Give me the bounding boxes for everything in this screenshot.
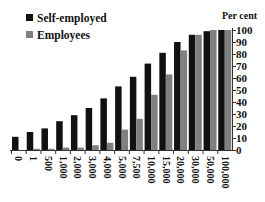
swatch-self-employed-icon [26,14,33,21]
legend-item-employees: Employees [26,26,107,43]
bar-self-employed-3 [56,121,63,150]
bar-employees-8 [136,119,143,150]
bar-employees-7 [122,130,129,150]
y-tick-label: 80 [236,49,247,60]
x-tick-label: 20,000 [175,156,185,184]
x-tick-label: 3,000 [87,156,97,179]
legend-item-self-employed: Self-employed [26,9,107,26]
x-tick-label: 15,000 [161,156,171,184]
bar-self-employed-5 [86,108,93,150]
x-tick-label: 1 [28,156,38,161]
bar-self-employed-2 [41,128,48,150]
bar-self-employed-8 [130,77,137,150]
x-tick-label: 0 [13,156,23,161]
legend-label-self-employed: Self-employed [37,12,107,24]
y-tick-label: 40 [236,97,247,108]
bar-employees-14 [225,30,232,150]
bar-self-employed-11 [174,42,181,150]
bar-employees-3 [63,148,69,150]
bar-employees-10 [166,74,173,150]
legend-label-employees: Employees [37,29,90,41]
x-tick-label: 7,500 [131,156,141,179]
bar-employees-13 [210,30,217,150]
bar-self-employed-7 [115,86,122,150]
x-tick-label: 10,000 [146,156,156,184]
bar-self-employed-0 [12,137,19,150]
y-tick-label: 0 [236,145,242,156]
bar-employees-9 [151,95,158,150]
bar-employees-1 [33,149,40,150]
y-axis-unit-label: Per cent [222,10,257,21]
x-tick-label: 500 [43,156,53,171]
bar-self-employed-10 [159,53,166,150]
x-tick-label: 2,000 [72,156,82,179]
y-tick-label: 30 [236,109,247,120]
bar-employees-5 [92,145,99,150]
bar-self-employed-14 [218,30,225,150]
legend: Self-employed Employees [26,9,107,43]
bar-employees-11 [181,50,188,150]
y-tick-label: 90 [236,37,247,48]
bar-self-employed-4 [71,115,78,150]
y-tick-label: 60 [236,73,247,84]
y-tick-label: 70 [236,61,247,72]
x-tick-label: 5,000 [117,156,127,179]
y-tick-label: 10 [236,133,247,144]
bar-self-employed-12 [189,35,196,150]
x-tick-label: 1,000 [58,156,68,179]
x-tick-label: 30,000 [190,156,200,184]
x-tick-label: 4,000 [102,156,112,179]
swatch-employees-icon [26,31,33,38]
x-tick-label: 50,000 [205,156,215,184]
bar-employees-12 [195,35,202,150]
bar-employees-4 [77,148,84,150]
bar-self-employed-6 [100,98,107,150]
y-tick-label: 20 [236,121,247,132]
bar-employees-2 [48,149,55,150]
bar-employees-6 [107,143,114,150]
bar-self-employed-13 [204,31,211,150]
y-tick-label: 100 [236,25,253,36]
x-tick-label: 100,000 [220,156,230,189]
bar-self-employed-1 [27,132,34,150]
y-tick-label: 50 [236,85,247,96]
bar-self-employed-9 [145,64,152,150]
